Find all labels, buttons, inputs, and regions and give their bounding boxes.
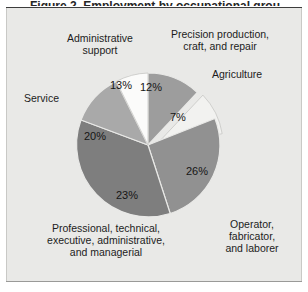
- slice-value-administrative-support: 13%: [110, 80, 132, 91]
- slice-label-administrative-support: Administrative support: [52, 32, 148, 56]
- slice-value-service: 20%: [84, 131, 106, 142]
- slice-label-precision-production: Precision production, craft, and repair: [158, 28, 282, 52]
- slice-value-agriculture: 7%: [170, 112, 186, 123]
- slice-label-service: Service: [24, 92, 92, 104]
- slice-label-agriculture: Agriculture: [212, 68, 298, 80]
- bottom-rule: [6, 281, 302, 282]
- slice-value-operator-fabricator: 26%: [186, 166, 208, 177]
- slice-label-operator-fabricator: Operator, fabricator, and laborer: [206, 218, 298, 254]
- slice-value-precision-production: 12%: [140, 82, 162, 93]
- figure-container: Figure 2. Employment by occupational gro…: [0, 0, 308, 292]
- slice-label-professional-technical: Professional, technical, executive, admi…: [22, 222, 190, 258]
- slice-value-professional-technical: 23%: [116, 190, 138, 201]
